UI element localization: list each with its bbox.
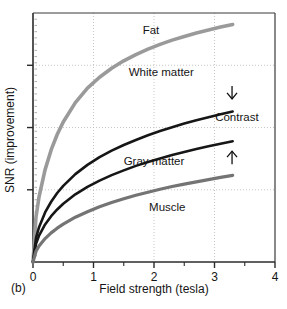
contrast-annotation-label: Contrast xyxy=(215,111,259,123)
figure-panel-b: Contrast 01234 FatWhite matterGray matte… xyxy=(0,0,287,309)
x-tick-label-0: 0 xyxy=(30,270,37,284)
x-axis-title: Field strength (tesla) xyxy=(99,282,208,296)
panel-label: (b) xyxy=(11,281,26,295)
y-axis-title: SNR (improvement) xyxy=(3,87,17,193)
label-white-matter: White matter xyxy=(129,66,194,78)
x-tick-label-4: 4 xyxy=(272,270,279,284)
x-tick-label-3: 3 xyxy=(211,270,218,284)
label-gray-matter: Gray matter xyxy=(124,155,185,167)
label-fat: Fat xyxy=(143,24,160,36)
x-tick-label-1: 1 xyxy=(90,270,97,284)
label-muscle: Muscle xyxy=(149,201,185,213)
snr-field-strength-chart: Contrast 01234 FatWhite matterGray matte… xyxy=(0,0,287,309)
